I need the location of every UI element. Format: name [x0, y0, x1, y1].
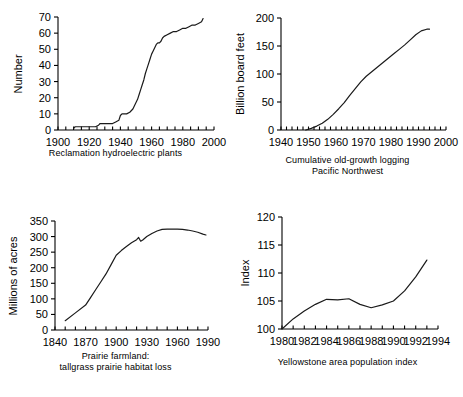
- ytick-label: 110: [257, 267, 275, 279]
- ytick-label: 50: [39, 43, 51, 55]
- ytick-label: 300: [30, 231, 48, 243]
- ytick-label: 150: [30, 277, 48, 289]
- chart-yellowstone: 1001051101151201980198219841986198819901…: [232, 199, 463, 349]
- ytick-label: 100: [30, 293, 48, 305]
- ytick-label: 60: [39, 27, 51, 39]
- ytick-label: 10: [39, 108, 51, 120]
- caption-line-1: Yellowstone area population index: [232, 357, 463, 368]
- xtick-label: 1930: [135, 336, 159, 348]
- caption-yellowstone: Yellowstone area population index: [232, 357, 463, 368]
- xtick-label: 1920: [77, 136, 101, 148]
- caption-line-1: Prairie farmland:: [0, 351, 231, 362]
- xtick-label: 1950: [296, 136, 320, 148]
- xtick-label: 1980: [171, 136, 195, 148]
- ytick-label: 40: [39, 59, 51, 71]
- caption-hydro: Reclamation hydroelectric plants: [0, 148, 231, 159]
- caption-line-2: Pacific Northwest: [232, 166, 463, 177]
- caption-prairie: Prairie farmland: tallgrass prairie habi…: [0, 351, 231, 373]
- panel-logging: 0501001502001940195019601970198019902000…: [232, 0, 463, 198]
- xtick-label: 2000: [202, 136, 226, 148]
- y-axis-title: Index: [239, 259, 251, 286]
- caption-line-1: Reclamation hydroelectric plants: [0, 148, 231, 159]
- xtick-label: 1990: [196, 336, 220, 348]
- xtick-label: 1960: [324, 136, 348, 148]
- figure-grid: 010203040506070190019201940196019802000N…: [0, 0, 463, 397]
- xtick-label: 1900: [46, 136, 70, 148]
- xtick-label: 1940: [108, 136, 132, 148]
- caption-line-1: Cumulative old-growth logging: [232, 155, 463, 166]
- xtick-label: 1940: [269, 136, 293, 148]
- panel-prairie: 0501001502002503003501840187019001930196…: [0, 199, 231, 397]
- xtick-label: 1980: [270, 335, 294, 347]
- series-line: [65, 229, 206, 321]
- ytick-label: 200: [256, 12, 274, 24]
- ytick-label: 20: [39, 92, 51, 104]
- y-axis-title: Billion board feet: [234, 33, 246, 115]
- ytick-label: 50: [36, 308, 48, 320]
- xtick-label: 1960: [139, 136, 163, 148]
- xtick-label: 1870: [73, 336, 97, 348]
- y-axis-title: Number: [12, 54, 24, 93]
- chart-prairie: 0501001502002503003501840187019001930196…: [0, 199, 231, 349]
- xtick-label: 1982: [292, 335, 316, 347]
- chart-hydro: 010203040506070190019201940196019802000N…: [0, 0, 231, 150]
- ytick-label: 350: [30, 215, 48, 227]
- xtick-label: 1970: [351, 136, 375, 148]
- xtick-label: 1994: [426, 335, 450, 347]
- ytick-label: 0: [268, 124, 274, 136]
- ytick-label: 105: [257, 295, 275, 307]
- caption-logging: Cumulative old-growth logging Pacific No…: [232, 155, 463, 177]
- chart-logging: 0501001502001940195019601970198019902000…: [232, 0, 463, 150]
- panel-hydro: 010203040506070190019201940196019802000N…: [0, 0, 231, 198]
- ytick-label: 250: [30, 246, 48, 258]
- xtick-label: 1900: [104, 336, 128, 348]
- ytick-label: 200: [30, 262, 48, 274]
- series-line: [74, 19, 203, 129]
- xtick-label: 1840: [43, 336, 67, 348]
- y-axis-title: Millions of acres: [7, 236, 19, 315]
- xtick-label: 2000: [434, 136, 458, 148]
- xtick-label: 1992: [403, 335, 427, 347]
- xtick-label: 1990: [381, 335, 405, 347]
- ytick-label: 70: [39, 11, 51, 23]
- ytick-label: 100: [256, 68, 274, 80]
- ytick-label: 50: [262, 96, 274, 108]
- ytick-label: 115: [257, 239, 275, 251]
- series-line: [306, 29, 430, 130]
- series-line: [282, 260, 427, 329]
- ytick-label: 0: [42, 324, 48, 336]
- xtick-label: 1990: [406, 136, 430, 148]
- panel-yellowstone: 1001051101151201980198219841986198819901…: [232, 199, 463, 397]
- caption-line-2: tallgrass prairie habitat loss: [0, 362, 231, 373]
- ytick-label: 30: [39, 76, 51, 88]
- ytick-label: 150: [256, 40, 274, 52]
- xtick-label: 1960: [165, 336, 189, 348]
- xtick-label: 1984: [314, 335, 338, 347]
- ytick-label: 120: [257, 211, 275, 223]
- xtick-label: 1988: [359, 335, 383, 347]
- ytick-label: 100: [257, 323, 275, 335]
- ytick-label: 0: [45, 124, 51, 136]
- xtick-label: 1980: [379, 136, 403, 148]
- xtick-label: 1986: [337, 335, 361, 347]
